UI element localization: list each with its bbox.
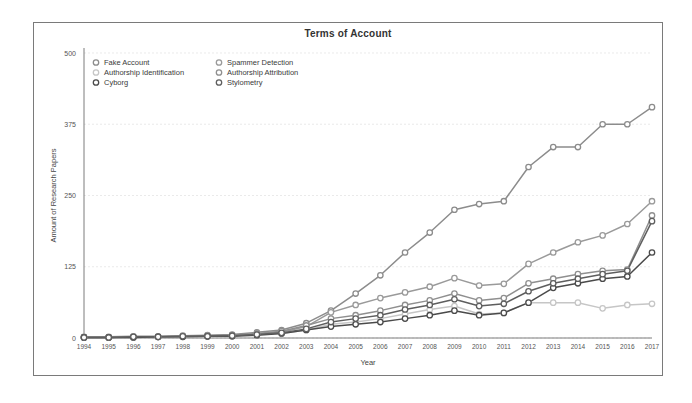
legend-marker bbox=[93, 80, 98, 85]
series-data-point bbox=[353, 316, 358, 321]
x-axis-tick-label: 1996 bbox=[126, 343, 141, 350]
series-data-point bbox=[452, 291, 457, 296]
series-data-point bbox=[353, 302, 358, 307]
series-line bbox=[84, 253, 652, 338]
series-data-point bbox=[402, 316, 407, 321]
x-axis-tick-label: 2005 bbox=[348, 343, 363, 350]
series-data-point bbox=[575, 144, 580, 149]
series-data-point bbox=[526, 261, 531, 266]
chart-figure: Terms of Account 01252503755001994199519… bbox=[33, 22, 663, 376]
series-data-point bbox=[476, 201, 481, 206]
series-data-point bbox=[625, 268, 630, 273]
series-data-point bbox=[427, 313, 432, 318]
series-data-point bbox=[551, 250, 556, 255]
legend-label: Cyborg bbox=[104, 78, 128, 87]
y-axis-tick-label: 0 bbox=[72, 335, 76, 342]
x-axis-tick-label: 2016 bbox=[620, 343, 635, 350]
series-data-point bbox=[254, 332, 259, 337]
series-data-point bbox=[452, 297, 457, 302]
series-data-point bbox=[625, 221, 630, 226]
x-axis-tick-label: 1994 bbox=[77, 343, 92, 350]
series-data-point bbox=[501, 295, 506, 300]
series-data-point bbox=[526, 300, 531, 305]
series-data-point bbox=[649, 213, 654, 218]
series-data-point bbox=[625, 274, 630, 279]
x-axis-tick-label: 2000 bbox=[225, 343, 240, 350]
series-data-point bbox=[427, 302, 432, 307]
series-data-point bbox=[575, 240, 580, 245]
series-data-point bbox=[501, 310, 506, 315]
series-data-point bbox=[551, 144, 556, 149]
series-data-point bbox=[501, 281, 506, 286]
legend-label: Spammer Detection bbox=[227, 58, 293, 67]
legend-marker bbox=[93, 60, 98, 65]
x-axis-title: Year bbox=[360, 358, 376, 367]
x-axis-tick-label: 2009 bbox=[447, 343, 462, 350]
series-data-point bbox=[551, 281, 556, 286]
y-axis-tick-label: 125 bbox=[64, 263, 76, 270]
series-data-point bbox=[378, 319, 383, 324]
series-data-point bbox=[402, 307, 407, 312]
series-data-point bbox=[476, 303, 481, 308]
chart-plot-area: 0125250375500199419951996199719981999200… bbox=[34, 23, 662, 375]
series-data-point bbox=[526, 281, 531, 286]
x-axis-tick-label: 2002 bbox=[274, 343, 289, 350]
series-data-point bbox=[625, 302, 630, 307]
series-data-point bbox=[526, 289, 531, 294]
y-axis-tick-label: 500 bbox=[64, 50, 76, 57]
series-data-point bbox=[600, 306, 605, 311]
series-data-point bbox=[402, 290, 407, 295]
x-axis-tick-label: 2011 bbox=[497, 343, 511, 350]
x-axis-tick-label: 2007 bbox=[398, 343, 413, 350]
x-axis-tick-label: 2012 bbox=[521, 343, 536, 350]
x-axis-tick-label: 2015 bbox=[595, 343, 610, 350]
series-data-point bbox=[378, 313, 383, 318]
series-data-point bbox=[476, 283, 481, 288]
series-data-point bbox=[427, 230, 432, 235]
x-axis-tick-label: 1997 bbox=[151, 343, 166, 350]
series-data-point bbox=[575, 276, 580, 281]
series-data-point bbox=[476, 298, 481, 303]
series-data-point bbox=[81, 335, 86, 340]
series-data-point bbox=[402, 250, 407, 255]
series-data-point bbox=[551, 300, 556, 305]
x-axis-tick-label: 1999 bbox=[200, 343, 215, 350]
legend-marker bbox=[216, 80, 221, 85]
x-axis-tick-label: 2013 bbox=[546, 343, 561, 350]
x-axis-tick-label: 2006 bbox=[373, 343, 388, 350]
series-data-point bbox=[328, 310, 333, 315]
series-data-point bbox=[155, 334, 160, 339]
series-data-point bbox=[649, 301, 654, 306]
series-data-point bbox=[452, 207, 457, 212]
series-data-point bbox=[229, 333, 234, 338]
series-line bbox=[84, 303, 652, 338]
series-data-point bbox=[180, 334, 185, 339]
series-data-point bbox=[501, 301, 506, 306]
series-data-point bbox=[279, 330, 284, 335]
series-data-point bbox=[649, 199, 654, 204]
series-data-point bbox=[625, 122, 630, 127]
series-data-point bbox=[649, 104, 654, 109]
series-data-point bbox=[501, 199, 506, 204]
series-data-point bbox=[353, 322, 358, 327]
series-data-point bbox=[353, 291, 358, 296]
series-data-point bbox=[526, 164, 531, 169]
series-data-point bbox=[378, 295, 383, 300]
legend-label: Authorship Identification bbox=[104, 68, 184, 77]
series-data-point bbox=[649, 250, 654, 255]
legend-marker bbox=[93, 70, 98, 75]
legend-marker bbox=[216, 70, 221, 75]
x-axis-tick-label: 2017 bbox=[645, 343, 660, 350]
series-data-point bbox=[427, 284, 432, 289]
series-data-point bbox=[476, 313, 481, 318]
x-axis-tick-label: 2010 bbox=[472, 343, 487, 350]
series-data-point bbox=[328, 319, 333, 324]
legend-label: Authorship Attribution bbox=[227, 68, 298, 77]
series-data-point bbox=[649, 218, 654, 223]
legend-label: Stylometry bbox=[227, 78, 263, 87]
legend-label: Fake Account bbox=[104, 58, 150, 67]
x-axis-tick-label: 2004 bbox=[324, 343, 339, 350]
x-axis-tick-label: 1995 bbox=[101, 343, 116, 350]
y-axis-tick-label: 250 bbox=[64, 192, 76, 199]
series-data-point bbox=[106, 335, 111, 340]
